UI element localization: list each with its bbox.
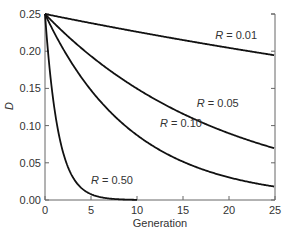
y-tick-label: 0.20 — [20, 45, 41, 57]
curve-label: R = 0.10 — [160, 117, 202, 129]
y-tick-label: 0.15 — [20, 82, 41, 94]
x-tick-label: 15 — [177, 204, 189, 216]
y-axis-label: D — [3, 102, 15, 110]
curve-label: R = 0.50 — [91, 174, 133, 186]
y-tick-label: 0.05 — [20, 157, 41, 169]
y-tick-label: 0.25 — [20, 8, 41, 20]
curve-label: R = 0.01 — [215, 29, 257, 41]
x-tick-label: 20 — [223, 204, 235, 216]
plot-frame — [45, 14, 275, 200]
x-tick-label: 10 — [131, 204, 143, 216]
y-tick-label: 0.10 — [20, 120, 41, 132]
curves — [45, 14, 274, 200]
x-tick-label: 5 — [88, 204, 94, 216]
x-tick-label: 0 — [42, 204, 48, 216]
x-tick-label: 25 — [269, 204, 281, 216]
x-axis-label: Generation — [133, 217, 187, 229]
y-tick-label: 0.00 — [20, 194, 41, 206]
curve-labels: R = 0.01R = 0.05R = 0.10R = 0.50 — [91, 29, 257, 186]
curve-label: R = 0.05 — [197, 97, 239, 109]
decay-chart: 0.000.050.100.150.200.250510152025 R = 0… — [0, 0, 290, 234]
